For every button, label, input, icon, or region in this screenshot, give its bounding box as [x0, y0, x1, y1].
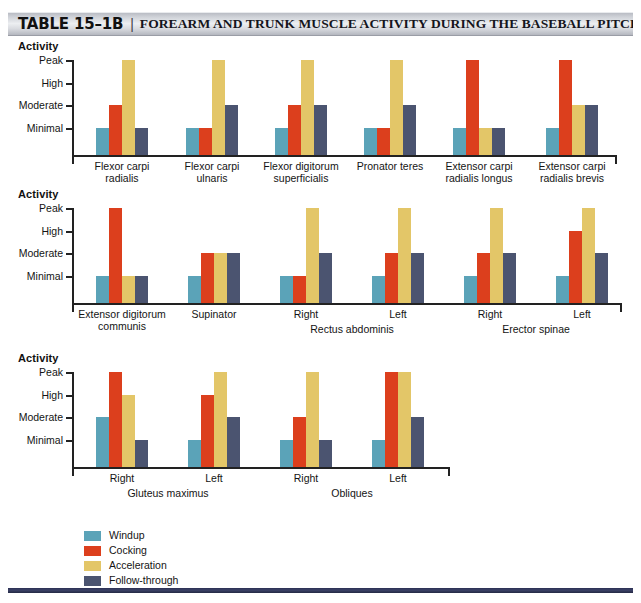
y-axis-tick-label: Moderate	[19, 248, 63, 259]
legend-swatch-followthrough	[84, 576, 101, 586]
bar-group	[96, 54, 148, 155]
legend-swatch-acceleration	[84, 561, 101, 571]
y-axis-tick	[66, 128, 74, 130]
bar-acceleration	[306, 208, 319, 303]
x-axis-group-label: Left	[346, 308, 450, 320]
bar-windup	[453, 128, 466, 155]
bar-group	[275, 54, 327, 155]
bar-followthrough	[225, 105, 238, 155]
bar-group	[364, 54, 416, 155]
bar-group	[372, 366, 424, 467]
plot-area-2: PeakHighModerateMinimalExtensor digitoru…	[0, 202, 641, 343]
bar-windup	[188, 440, 201, 467]
y-axis-tick	[66, 417, 74, 419]
bar-followthrough	[492, 128, 505, 155]
y-axis-tick-label: Peak	[39, 203, 63, 214]
x-axis-super-label: Rectus abdominis	[282, 323, 422, 335]
chart-row-3: Activity PeakHighModerateMinimalRightLef…	[0, 352, 641, 512]
chart-row-1: Activity PeakHighModerateMinimalFlexor c…	[0, 40, 641, 185]
bar-acceleration	[306, 372, 319, 467]
legend-swatch-cocking	[84, 546, 101, 556]
header-separator: |	[130, 16, 134, 32]
bar-cocking	[385, 372, 398, 467]
bar-followthrough	[314, 105, 327, 155]
bar-acceleration	[572, 105, 585, 155]
legend-label: Follow-through	[109, 575, 178, 586]
y-axis-tick-label: Peak	[39, 55, 63, 66]
x-axis-line	[72, 303, 620, 305]
bar-cocking	[477, 253, 490, 303]
table-title: FOREARM AND TRUNK MUSCLE ACTIVITY DURING…	[140, 16, 633, 32]
bar-windup	[275, 128, 288, 155]
y-axis-line	[72, 60, 74, 155]
legend-item: Acceleration	[84, 559, 178, 572]
y-axis-tick-label: Minimal	[27, 271, 63, 282]
bar-cocking	[385, 253, 398, 303]
legend-item: Cocking	[84, 544, 178, 557]
bar-windup	[280, 440, 293, 467]
legend-label: Acceleration	[109, 560, 167, 571]
y-axis-tick	[66, 395, 74, 397]
bar-group	[546, 54, 598, 155]
bar-followthrough	[595, 253, 608, 303]
x-axis-line	[72, 467, 448, 469]
bar-followthrough	[135, 276, 148, 303]
bar-cocking	[109, 208, 122, 303]
bar-cocking	[201, 395, 214, 467]
bar-windup	[556, 276, 569, 303]
y-axis-tick	[66, 372, 74, 374]
x-axis-super-label: Gluteus maximus	[98, 487, 238, 499]
x-axis-group-label: Flexor carpi radialis	[70, 160, 174, 184]
x-axis-group-label: Extensor digitorum communis	[70, 308, 174, 332]
bar-acceleration	[301, 60, 314, 155]
plot-area-3: PeakHighModerateMinimalRightLeftRightLef…	[0, 366, 641, 512]
bar-followthrough	[319, 253, 332, 303]
y-axis-tick	[66, 105, 74, 107]
bar-windup	[186, 128, 199, 155]
x-axis-super-label: Obliques	[282, 487, 422, 499]
x-axis-group-label: Supinator	[162, 308, 266, 320]
x-axis-group-label: Left	[530, 308, 634, 320]
bar-acceleration	[214, 372, 227, 467]
bar-cocking	[293, 417, 306, 467]
legend-label: Cocking	[109, 545, 147, 556]
bar-followthrough	[503, 253, 516, 303]
bar-group	[556, 202, 608, 303]
bar-acceleration	[212, 60, 225, 155]
bar-group	[280, 366, 332, 467]
x-axis-group-label: Left	[346, 472, 450, 484]
bar-group	[372, 202, 424, 303]
x-axis-group-label: Right	[70, 472, 174, 484]
bar-cocking	[466, 60, 479, 155]
y-axis-title: Activity	[18, 352, 59, 364]
x-axis-line	[72, 155, 615, 157]
bar-acceleration	[398, 372, 411, 467]
bar-cocking	[109, 372, 122, 467]
bar-cocking	[109, 105, 122, 155]
bar-followthrough	[319, 440, 332, 467]
table-number: TABLE 15–1B	[18, 15, 123, 33]
y-axis-line	[72, 372, 74, 467]
y-axis-tick-label: High	[41, 226, 63, 237]
bar-cocking	[559, 60, 572, 155]
bar-acceleration	[490, 208, 503, 303]
bar-group	[96, 202, 148, 303]
y-axis-tick	[66, 60, 74, 62]
bar-cocking	[199, 128, 212, 155]
bar-followthrough	[411, 253, 424, 303]
bar-acceleration	[479, 128, 492, 155]
y-axis-tick-label: Minimal	[27, 123, 63, 134]
x-axis-super-label: Erector spinae	[466, 323, 606, 335]
bar-followthrough	[227, 417, 240, 467]
plot-area-1: PeakHighModerateMinimalFlexor carpi radi…	[0, 54, 641, 185]
bar-cocking	[377, 128, 390, 155]
y-axis-title: Activity	[18, 188, 59, 200]
y-axis-tick	[66, 231, 74, 233]
bar-cocking	[288, 105, 301, 155]
y-axis-tick-label: High	[41, 390, 63, 401]
y-axis-tick	[66, 276, 74, 278]
x-axis-group-label: Extensor carpi radialis brevis	[520, 160, 624, 184]
bar-followthrough	[227, 253, 240, 303]
x-axis-group-label: Right	[438, 308, 542, 320]
bar-acceleration	[398, 208, 411, 303]
